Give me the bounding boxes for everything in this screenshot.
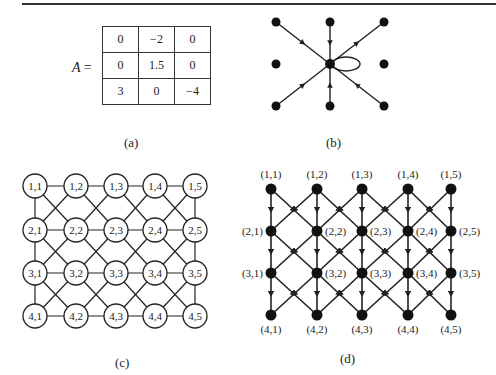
- node-label: (3,3): [370, 267, 391, 280]
- node-label: (4,4): [397, 323, 418, 336]
- grid-graph-d: (1,1)(1,2)(1,3)(1,4)(1,5)(2,1)(2,2)(2,3)…: [0, 0, 496, 375]
- graph-node: [312, 268, 323, 279]
- node-label: (1,3): [351, 168, 372, 181]
- graph-node: [266, 184, 277, 195]
- graph-node: [403, 268, 414, 279]
- node-label: (4,5): [440, 323, 461, 336]
- graph-node: [312, 310, 323, 321]
- graph-node: [357, 184, 368, 195]
- graph-node: [403, 310, 414, 321]
- node-label: (4,1): [260, 323, 281, 336]
- graph-node: [266, 268, 277, 279]
- node-label: (3,2): [325, 267, 346, 280]
- node-label: (4,3): [351, 323, 372, 336]
- graph-node: [357, 226, 368, 237]
- graph-node: [312, 226, 323, 237]
- node-label: (2,2): [325, 225, 346, 238]
- graph-node: [403, 184, 414, 195]
- node-label: (3,5): [459, 267, 480, 280]
- node-label: (4,2): [306, 323, 327, 336]
- graph-node: [266, 226, 277, 237]
- caption-d: (d): [340, 351, 355, 367]
- graph-node: [403, 226, 414, 237]
- node-label: (2,3): [370, 225, 391, 238]
- node-label: (3,1): [242, 267, 263, 280]
- graph-node: [312, 184, 323, 195]
- node-label: (3,4): [416, 267, 437, 280]
- graph-node: [446, 310, 457, 321]
- graph-node: [446, 184, 457, 195]
- node-label: (1,1): [260, 168, 281, 181]
- node-label: (2,4): [416, 225, 437, 238]
- node-label: (2,5): [459, 225, 480, 238]
- graph-node: [446, 226, 457, 237]
- graph-node: [266, 310, 277, 321]
- graph-node: [357, 310, 368, 321]
- node-label: (1,4): [397, 168, 418, 181]
- node-label: (2,1): [242, 225, 263, 238]
- graph-node: [357, 268, 368, 279]
- graph-node: [446, 268, 457, 279]
- node-label: (1,2): [306, 168, 327, 181]
- node-label: (1,5): [440, 168, 461, 181]
